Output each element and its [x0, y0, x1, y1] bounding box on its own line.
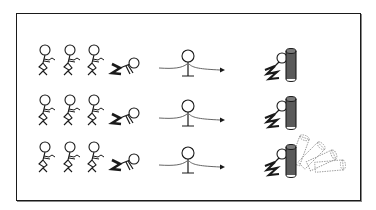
crouching-figure — [112, 154, 139, 170]
waiting-group — [39, 45, 104, 75]
row-1 — [39, 45, 296, 82]
standing-figure-with-arrow — [159, 50, 225, 76]
falling-cylinders — [290, 134, 346, 173]
standing-figure-with-arrow — [159, 147, 225, 173]
cylinder — [286, 145, 296, 178]
diagram-illustration — [0, 0, 376, 210]
waiting-group — [39, 142, 104, 172]
crouching-figure — [112, 58, 139, 74]
crouching-figure — [112, 108, 139, 124]
waiting-group — [39, 95, 104, 125]
cylinder — [286, 49, 296, 82]
row-3 — [39, 134, 346, 178]
cylinder — [286, 97, 296, 130]
standing-figure-with-arrow — [159, 100, 225, 126]
row-2 — [39, 95, 296, 130]
